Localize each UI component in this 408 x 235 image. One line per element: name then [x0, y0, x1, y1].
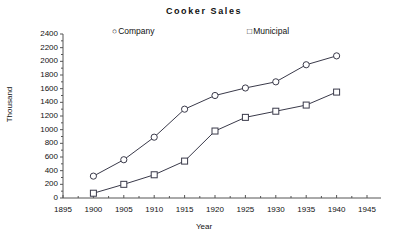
data-point-municipal [273, 108, 279, 114]
data-point-company [121, 157, 127, 163]
data-point-company [242, 85, 248, 91]
cooker-sales-chart: Cooker Sales ○Company □Municipal Thousan… [0, 0, 408, 235]
data-point-municipal [334, 89, 340, 95]
data-point-company [334, 53, 340, 59]
data-point-company [303, 62, 309, 68]
series-line-company [93, 56, 336, 176]
data-point-municipal [212, 128, 218, 134]
data-point-municipal [121, 181, 127, 187]
data-point-company [273, 79, 279, 85]
plot-area [0, 0, 408, 235]
data-point-municipal [151, 172, 157, 178]
data-point-municipal [242, 114, 248, 120]
data-point-municipal [303, 102, 309, 108]
data-point-municipal [182, 158, 188, 164]
data-point-company [90, 173, 96, 179]
data-point-company [212, 92, 218, 98]
series-line-municipal [93, 92, 336, 193]
data-point-municipal [90, 190, 96, 196]
data-point-company [182, 106, 188, 112]
data-point-company [151, 134, 157, 140]
